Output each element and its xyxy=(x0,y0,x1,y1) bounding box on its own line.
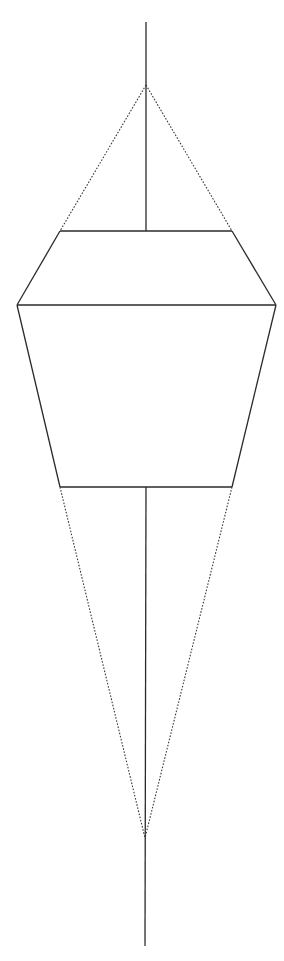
body-upper-right-edge xyxy=(232,231,276,305)
bobber-shape-diagram xyxy=(0,0,284,961)
lower-left-projection xyxy=(60,487,145,838)
body-upper-left-edge xyxy=(17,231,60,305)
body-lower-right-edge xyxy=(232,305,276,487)
upper-left-projection xyxy=(60,85,146,231)
axis-lower-line xyxy=(145,487,146,946)
lower-right-projection xyxy=(145,487,232,838)
diagram-canvas xyxy=(0,0,284,961)
body-lower-left-edge xyxy=(17,305,60,487)
upper-right-projection xyxy=(146,85,232,231)
solid-lines xyxy=(17,22,276,946)
